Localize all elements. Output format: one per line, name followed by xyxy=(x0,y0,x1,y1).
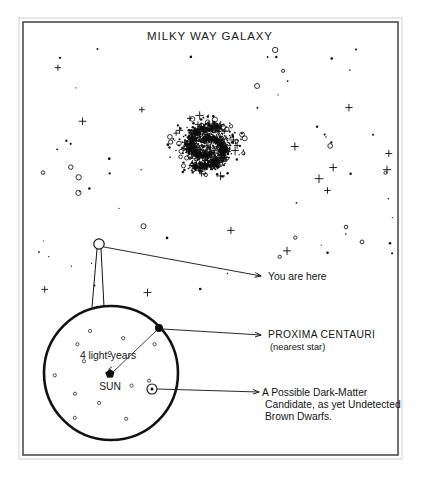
you-are-here-leader xyxy=(104,247,261,276)
galaxy-scatter xyxy=(38,47,393,296)
brown-dwarf-label-line2: Candidate, as yet Undetected xyxy=(265,399,401,410)
sun-marker xyxy=(105,367,114,378)
light-years-label: 4 light-years xyxy=(80,350,136,361)
you-are-here-marker xyxy=(94,239,104,249)
brown-dwarf-label-line3: Brown Dwarfs. xyxy=(265,411,332,422)
proxima-centauri-sublabel: (nearest star) xyxy=(270,342,325,352)
proxima-centauri-label: PROXIMA CENTAURI xyxy=(268,329,375,340)
page-title: MILKY WAY GALAXY xyxy=(147,30,273,42)
brown-dwarf-leader xyxy=(157,389,259,392)
you-are-here-label: You are here xyxy=(268,271,327,282)
milky-way-diagram: MILKY WAY GALAXY xyxy=(0,0,421,479)
inset-callout-cone xyxy=(92,249,104,307)
sun-label: SUN xyxy=(99,381,121,392)
brown-dwarf-label-line1: A Possible Dark-Matter xyxy=(262,387,368,398)
inset-neighbor-stars xyxy=(53,329,156,420)
proxima-centauri-marker xyxy=(155,324,163,332)
figure-page: MILKY WAY GALAXY xyxy=(0,0,421,479)
brown-dwarf-marker xyxy=(147,384,157,394)
proxima-leader xyxy=(163,329,261,335)
